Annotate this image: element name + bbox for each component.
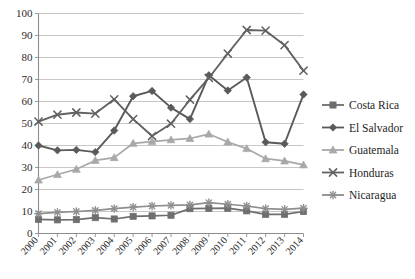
data-point-marker xyxy=(111,205,118,212)
data-point-marker xyxy=(54,217,60,223)
y-tick-label: 10 xyxy=(22,205,34,217)
legend-group: Costa RicaEl SalvadorGuatemalaHondurasNi… xyxy=(322,99,403,202)
data-point-marker xyxy=(168,212,174,218)
data-point-marker xyxy=(130,213,136,219)
data-point-marker xyxy=(129,93,136,100)
data-point-marker xyxy=(73,217,79,223)
x-tick-label: 2006 xyxy=(132,234,154,256)
y-tick-label: 30 xyxy=(22,161,34,173)
data-point-marker xyxy=(92,215,98,221)
data-point-marker xyxy=(111,216,117,222)
data-point-marker xyxy=(73,146,80,153)
data-point-marker xyxy=(35,210,42,217)
data-point-marker xyxy=(300,205,307,212)
data-point-marker xyxy=(35,142,42,149)
data-point-marker xyxy=(281,140,288,147)
legend-item-guatemala[interactable]: Guatemala xyxy=(322,144,399,156)
y-tick-label: 70 xyxy=(22,73,34,85)
y-tick-label: 20 xyxy=(22,183,34,195)
data-point-marker xyxy=(262,205,269,212)
data-point-marker xyxy=(281,42,288,49)
x-tick-label: 2012 xyxy=(246,234,268,256)
legend-item-costa-rica[interactable]: Costa Rica xyxy=(322,99,399,111)
ytick-labels-group: 0102030405060708090100 xyxy=(16,7,33,239)
x-tick-label: 2009 xyxy=(189,234,211,256)
data-point-marker xyxy=(300,67,307,74)
data-point-marker xyxy=(330,102,336,108)
data-point-marker xyxy=(186,96,193,103)
legend-item-label: Honduras xyxy=(349,167,394,179)
data-point-marker xyxy=(205,130,213,137)
x-tick-label: 2011 xyxy=(227,234,248,256)
data-point-marker xyxy=(54,209,61,216)
data-point-marker xyxy=(300,91,307,98)
data-point-marker xyxy=(73,208,80,215)
data-point-marker xyxy=(329,191,336,198)
legend-item-label: Guatemala xyxy=(349,144,399,156)
data-point-marker xyxy=(130,116,137,123)
legend-item-label: Nicaragua xyxy=(349,189,396,202)
y-tick-label: 90 xyxy=(22,29,34,41)
y-tick-label: 100 xyxy=(16,7,33,19)
data-point-marker xyxy=(148,202,155,209)
x-tick-label: 2007 xyxy=(151,234,173,256)
data-point-marker xyxy=(92,207,99,214)
data-point-marker xyxy=(186,201,193,208)
x-tick-label: 2004 xyxy=(94,234,116,256)
x-tick-label: 2005 xyxy=(113,234,135,256)
y-tick-label: 40 xyxy=(22,139,34,151)
data-point-marker xyxy=(224,50,231,57)
y-tick-label: 50 xyxy=(22,117,34,129)
x-tick-label: 2003 xyxy=(75,234,97,256)
data-point-marker xyxy=(167,202,174,209)
y-tick-label: 80 xyxy=(22,51,34,63)
legend-item-honduras[interactable]: Honduras xyxy=(322,167,394,179)
xtick-labels-group: 2000200120022003200420052006200720082009… xyxy=(18,234,305,256)
data-point-marker xyxy=(329,124,336,131)
data-point-marker xyxy=(281,206,288,213)
line-chart-container: 0102030405060708090100 20002001200220032… xyxy=(0,0,415,279)
x-tick-label: 2000 xyxy=(18,234,40,256)
legend-item-label: El Salvador xyxy=(349,122,403,134)
data-point-marker xyxy=(243,202,250,209)
series-line-honduras xyxy=(39,30,304,136)
data-point-marker xyxy=(205,199,212,206)
x-tick-label: 2001 xyxy=(37,234,59,256)
data-point-marker xyxy=(129,203,136,210)
legend-item-label: Costa Rica xyxy=(349,99,399,111)
x-tick-label: 2014 xyxy=(283,234,305,256)
y-tick-label: 60 xyxy=(22,95,34,107)
legend-item-nicaragua[interactable]: Nicaragua xyxy=(322,189,396,202)
legend-item-el-salvador[interactable]: El Salvador xyxy=(322,122,403,134)
data-point-marker xyxy=(224,201,231,208)
x-tick-label: 2002 xyxy=(56,234,78,256)
series-markers-group xyxy=(35,26,308,223)
data-point-marker xyxy=(54,147,61,154)
chart-svg: 0102030405060708090100 20002001200220032… xyxy=(0,0,415,279)
series-lines-group xyxy=(39,30,304,220)
data-point-marker xyxy=(149,213,155,219)
x-tick-label: 2008 xyxy=(170,234,192,256)
data-point-marker xyxy=(262,139,269,146)
x-tick-label: 2010 xyxy=(208,234,230,256)
series-markers-guatemala xyxy=(35,130,308,183)
x-tick-label: 2013 xyxy=(265,234,287,256)
